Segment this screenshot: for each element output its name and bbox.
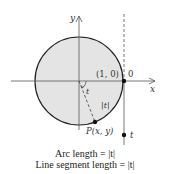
point-t bbox=[122, 133, 126, 137]
y-axis-label: y bbox=[69, 13, 76, 23]
x-axis-label: x bbox=[150, 84, 155, 94]
point-1-0-label: (1, 0) bbox=[96, 69, 119, 79]
point-p bbox=[93, 120, 97, 124]
point-p-label: P(x, y) bbox=[85, 126, 113, 136]
caption-arc-length: Arc length = |t| bbox=[0, 148, 170, 159]
arc-length-label: |t| bbox=[101, 101, 110, 110]
point-1-0 bbox=[122, 79, 126, 83]
line-t-label: t bbox=[130, 130, 134, 140]
origin-t-label: 0 bbox=[128, 69, 133, 79]
caption-segment-length: Line segment length = |t| bbox=[0, 159, 170, 170]
